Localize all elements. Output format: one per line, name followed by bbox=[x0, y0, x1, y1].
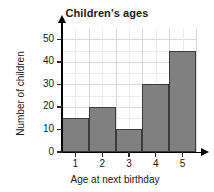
x-tick-label: 1 bbox=[63, 158, 87, 169]
y-tick-mark bbox=[57, 61, 62, 62]
y-axis-title: Number of children bbox=[15, 29, 26, 159]
x-axis-arrow-icon bbox=[201, 148, 209, 156]
x-tick-mark bbox=[75, 152, 76, 157]
y-tick-label: 0 bbox=[14, 146, 54, 157]
plot-area bbox=[62, 28, 196, 152]
x-tick-label: 2 bbox=[90, 158, 114, 169]
bar bbox=[169, 51, 196, 152]
y-tick-mark bbox=[57, 84, 62, 85]
chart-figure: Children's ages Number of children Age a… bbox=[0, 0, 214, 192]
bar bbox=[142, 84, 169, 152]
gridline-vertical bbox=[196, 28, 197, 152]
bars-layer bbox=[62, 28, 196, 152]
y-tick-mark bbox=[57, 39, 62, 40]
bar bbox=[62, 118, 89, 152]
x-tick-label: 4 bbox=[144, 158, 168, 169]
y-tick-mark bbox=[57, 129, 62, 130]
y-tick-mark bbox=[57, 151, 62, 152]
y-tick-label: 40 bbox=[14, 55, 54, 66]
y-axis-arrow-icon bbox=[58, 15, 66, 23]
x-tick-mark bbox=[102, 152, 103, 157]
y-axis-line bbox=[61, 22, 63, 153]
bar bbox=[89, 107, 116, 152]
bar bbox=[116, 129, 143, 152]
x-tick-label: 3 bbox=[117, 158, 141, 169]
y-tick-label: 10 bbox=[14, 123, 54, 134]
x-tick-mark bbox=[155, 152, 156, 157]
chart-title: Children's ages bbox=[0, 7, 214, 19]
y-tick-mark bbox=[57, 106, 62, 107]
x-axis-title: Age at next birthday bbox=[30, 174, 200, 185]
y-tick-label: 30 bbox=[14, 78, 54, 89]
y-tick-label: 20 bbox=[14, 100, 54, 111]
y-tick-label: 50 bbox=[14, 33, 54, 44]
x-tick-mark bbox=[182, 152, 183, 157]
x-tick-label: 5 bbox=[171, 158, 195, 169]
x-tick-mark bbox=[128, 152, 129, 157]
